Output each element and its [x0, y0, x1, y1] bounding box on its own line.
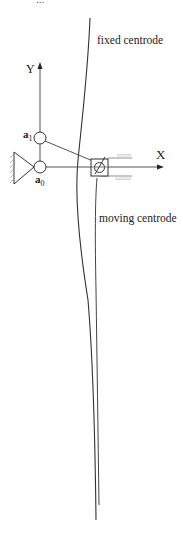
mechanism-diagram: [0, 0, 183, 537]
moving-centrode-label: moving centrode: [99, 212, 177, 224]
joint-a0-subscript: 0: [41, 179, 45, 188]
coupler-link: [45, 141, 93, 161]
slider-pin-circle: [95, 163, 105, 173]
joint-a1-circle: [34, 132, 46, 144]
ground-hatch: [10, 154, 14, 183]
moving-centrode-curve: [95, 178, 99, 505]
x-axis-label: X: [156, 147, 165, 163]
joint-a0-label: a0: [35, 173, 45, 188]
y-axis-arrowhead: [38, 62, 43, 69]
x-axis-arrowhead: [157, 165, 164, 170]
joint-a1-label: a1: [23, 128, 33, 143]
fixed-centrode-curve: [77, 18, 96, 520]
y-axis-label: Y: [26, 62, 35, 77]
fixed-centrode-label: fixed centrode: [97, 34, 163, 46]
joint-a1-subscript: 1: [29, 134, 33, 143]
ground-triangle: [14, 152, 34, 184]
joint-a0-circle: [34, 161, 46, 173]
